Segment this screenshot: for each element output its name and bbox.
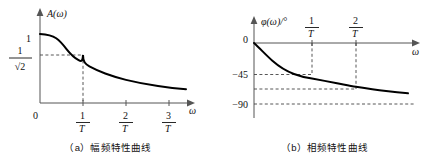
x-tick-label-2t-den: T xyxy=(122,123,129,134)
x-tick-label-0: 0 xyxy=(33,110,38,121)
y-axis-arrow xyxy=(37,8,44,16)
y-axis-label: φ(ω)/° xyxy=(261,16,287,28)
panel-a-caption: （a）幅频特性曲线 xyxy=(0,140,216,154)
x-tick-label-3t-den: T xyxy=(165,123,172,134)
y-axis-arrow xyxy=(251,16,258,24)
panel-phase-response: φ(ω)/° ω 1 T 2 T 0 −45 −90 xyxy=(216,0,433,158)
magnitude-curve xyxy=(40,34,186,89)
panel-magnitude-response: A(ω) ω 0 1 T 2 T 3 T 1 1 xyxy=(0,0,216,158)
x-tick-label-1t-den: T xyxy=(79,123,86,134)
figure-container: A(ω) ω 0 1 T 2 T 3 T 1 1 xyxy=(0,0,433,158)
x-tick-label-1t-num: 1 xyxy=(80,110,85,121)
magnitude-svg: A(ω) ω 0 1 T 2 T 3 T 1 1 xyxy=(0,0,216,132)
phase-plot: φ(ω)/° ω 1 T 2 T 0 −45 −90 xyxy=(216,0,433,132)
y-tick-label-invsqrt2-num: 1 xyxy=(18,45,23,56)
x-tick-label-2t-num: 2 xyxy=(123,110,128,121)
x-axis-label: ω xyxy=(189,105,196,116)
y-tick-label-minus90: −90 xyxy=(232,99,248,110)
y-tick-label-1: 1 xyxy=(26,33,31,44)
y-axis-label: A(ω) xyxy=(46,8,67,20)
phase-curve xyxy=(254,43,408,93)
x-tick-label-2t-den: T xyxy=(352,28,359,39)
x-tick-label-1t-den: T xyxy=(308,28,315,39)
x-tick-label-2t-num: 2 xyxy=(353,15,358,26)
phase-svg: φ(ω)/° ω 1 T 2 T 0 −45 −90 xyxy=(216,0,433,132)
magnitude-plot: A(ω) ω 0 1 T 2 T 3 T 1 1 xyxy=(0,0,216,132)
y-tick-label-invsqrt2-den: √2 xyxy=(15,61,26,72)
y-tick-label-minus45: −45 xyxy=(232,69,248,80)
panel-b-caption: （b）相频特性曲线 xyxy=(216,140,433,154)
x-axis-label: ω xyxy=(412,46,419,57)
x-tick-label-3t-num: 3 xyxy=(166,110,171,121)
y-tick-label-0: 0 xyxy=(243,34,248,45)
x-tick-label-1t-num: 1 xyxy=(309,15,314,26)
